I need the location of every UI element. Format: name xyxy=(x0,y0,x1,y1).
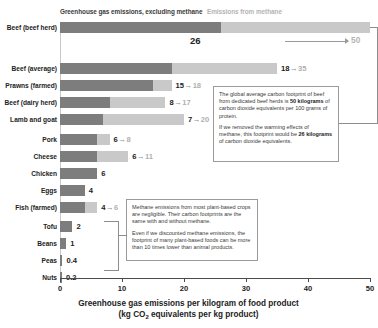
bar-category-label: Tofu xyxy=(43,221,57,232)
bar-value-label: 6→11 xyxy=(132,151,153,162)
bar-segment-excluding-methane xyxy=(60,151,97,162)
bar-value-label: 8→17 xyxy=(169,97,190,108)
bar-segment-excluding-methane xyxy=(60,255,62,266)
bar-value-label: 6→8 xyxy=(114,134,131,145)
bar-segment-excluding-methane xyxy=(60,114,103,125)
bar-category-label: Eggs xyxy=(41,185,57,196)
bar-value-label: 6 xyxy=(101,168,105,179)
bar-segment-methane xyxy=(103,114,184,125)
highlight-value-50: 50 xyxy=(351,35,360,45)
bar-segment-methane xyxy=(97,134,109,145)
bar-category-label: Prawns (farmed) xyxy=(5,80,57,91)
connector-plant-horizontal xyxy=(118,235,127,236)
bar-segment-excluding-methane xyxy=(60,202,85,213)
callout-beef-footprint: The global average carbon footprint of b… xyxy=(213,86,339,162)
bar-value-label: 2 xyxy=(76,221,80,232)
bar-segment-excluding-methane xyxy=(60,134,97,145)
connector-plant-bracket-vertical xyxy=(118,221,119,271)
x-axis-line xyxy=(60,278,371,279)
bar-segment-methane xyxy=(153,80,172,91)
bar-value-label: 4→6 xyxy=(101,202,118,213)
bar-value-label: 7→20 xyxy=(188,114,209,125)
bar-category-label: Chicken xyxy=(31,168,57,179)
bar-segment-excluding-methane xyxy=(60,185,85,196)
bar-category-label: Beef (beef herd) xyxy=(7,22,57,33)
bar-segment-methane xyxy=(97,151,128,162)
bar-segment-excluding-methane xyxy=(60,80,153,91)
highlight-value-26: 26 xyxy=(190,35,201,46)
bar-segment-excluding-methane xyxy=(60,221,72,232)
x-axis-tick xyxy=(370,278,371,282)
legend-item-excluding-methane: Greenhouse gas emissions, excluding meth… xyxy=(60,8,202,15)
legend-item-methane: Emissions from methane xyxy=(207,8,282,15)
bar-category-label: Cheese xyxy=(34,151,57,162)
bar-value-label: 0.4 xyxy=(66,255,77,266)
callout-plant-paragraph-2: Even if we discounted methane emissions,… xyxy=(132,230,252,252)
x-axis-tick xyxy=(60,278,61,282)
bar-category-label: Pork xyxy=(42,134,57,145)
bar-category-label: Nuts xyxy=(42,272,57,283)
callout-beef-paragraph-2: If we removed the warming effects of met… xyxy=(219,124,333,146)
connector-beef-horizontal-bottom xyxy=(339,123,378,124)
bar-segment-methane xyxy=(85,202,97,213)
axis-title-line2: (kg CO2 equivalents per kg product) xyxy=(0,309,377,321)
bar-segment-excluding-methane xyxy=(60,22,221,33)
axis-title-line1: Greenhouse gas emissions per kilogram of… xyxy=(0,298,377,309)
x-axis-tick-label: 10 xyxy=(118,284,126,293)
x-axis-tick-label: 50 xyxy=(366,284,374,293)
callout-plant-paragraph-1: Methane emissions from most plant-based … xyxy=(132,204,252,226)
bar-value-label: 4 xyxy=(89,185,93,196)
bar-value-label: 18→35 xyxy=(281,63,307,74)
x-axis-tick xyxy=(308,278,309,282)
connector-plant-bracket-top xyxy=(104,221,119,222)
connector-plant-bracket-bottom xyxy=(104,270,119,271)
bar-segment-methane xyxy=(110,97,166,108)
bar-category-label: Fish (farmed) xyxy=(15,202,57,213)
bar-category-label: Peas xyxy=(42,255,57,266)
bar-segment-methane xyxy=(172,63,277,74)
bar-row: Beef (beef herd) xyxy=(60,22,370,33)
bar-value-label: 15→18 xyxy=(176,80,202,91)
axis-title: Greenhouse gas emissions per kilogram of… xyxy=(0,298,377,321)
x-axis-tick xyxy=(184,278,185,282)
x-axis-tick-label: 40 xyxy=(304,284,312,293)
bar-segment-excluding-methane xyxy=(60,63,172,74)
bar-value-label: 1 xyxy=(70,238,74,249)
bar-row: Chicken6 xyxy=(60,168,370,179)
bar-row: Eggs4 xyxy=(60,185,370,196)
bar-category-label: Beef (average) xyxy=(12,63,57,74)
chart-legend: Greenhouse gas emissions, excluding meth… xyxy=(60,8,377,20)
bar-segment-excluding-methane xyxy=(60,238,66,249)
bar-category-label: Beans xyxy=(37,238,57,249)
bar-segment-methane xyxy=(221,22,370,33)
bar-segment-excluding-methane xyxy=(60,97,110,108)
bar-category-label: Lamb and goat xyxy=(10,114,57,125)
x-axis-tick xyxy=(122,278,123,282)
x-axis-tick-label: 20 xyxy=(180,284,188,293)
bar-category-label: Beef (dairy herd) xyxy=(5,97,57,108)
x-axis-tick-label: 0 xyxy=(58,284,62,293)
callout-beef-paragraph-1: The global average carbon footprint of b… xyxy=(219,91,333,120)
bar-segment-excluding-methane xyxy=(60,168,97,179)
callout-plant-based: Methane emissions from most plant-based … xyxy=(126,199,258,261)
bar-row: Beef (average)18→35 xyxy=(60,63,370,74)
x-axis-tick xyxy=(246,278,247,282)
highlight-arrow-to-50: 50 xyxy=(285,35,365,47)
x-axis-tick-label: 30 xyxy=(242,284,250,293)
